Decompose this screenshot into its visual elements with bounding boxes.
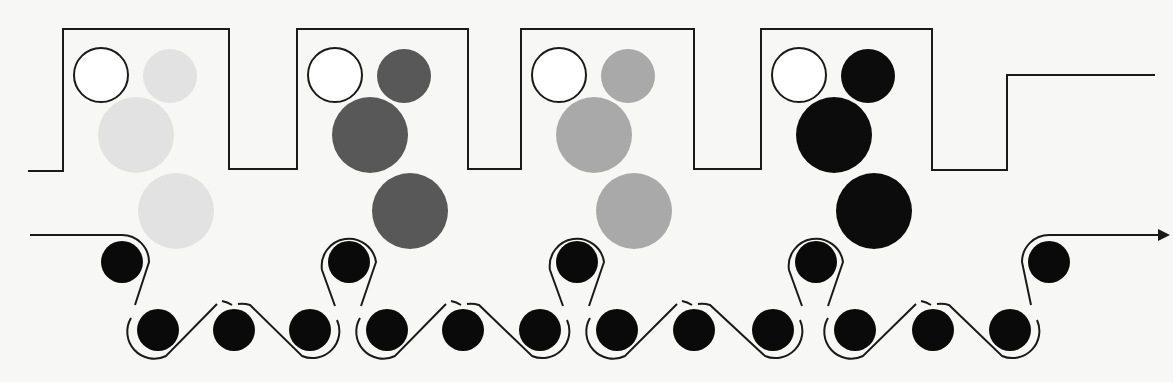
empty-circle [74, 48, 128, 102]
empty-circle [772, 48, 826, 102]
tank-3 [532, 48, 672, 249]
lower-roller [289, 309, 331, 351]
material-circle [143, 49, 197, 103]
web-over-wrap [921, 301, 931, 305]
upper-roller [556, 241, 598, 283]
web-over-wrap [451, 301, 461, 305]
upper-roller [101, 241, 143, 283]
material-circle [138, 173, 214, 249]
tank-circles [74, 48, 912, 249]
lower-roller [989, 309, 1031, 351]
material-circle [332, 97, 408, 173]
tank-1 [74, 48, 214, 249]
web-over-wrap [222, 301, 232, 305]
lower-roller [137, 309, 179, 351]
web-over-wrap [682, 301, 692, 305]
lower-roller [442, 309, 484, 351]
lower-roller [213, 309, 255, 351]
material-circle [377, 49, 431, 103]
upper-roller [795, 241, 837, 283]
lower-roller [752, 309, 794, 351]
material-circle [841, 49, 895, 103]
empty-circle [532, 48, 586, 102]
material-circle [601, 49, 655, 103]
tank-4 [772, 48, 912, 249]
lower-roller [519, 309, 561, 351]
upper-roller [1028, 241, 1070, 283]
material-circle [596, 173, 672, 249]
material-circle [796, 97, 872, 173]
material-circle [556, 97, 632, 173]
web-process-diagram [0, 0, 1173, 382]
upper-roller [328, 241, 370, 283]
lower-roller [912, 309, 954, 351]
lower-roller [596, 309, 638, 351]
material-circle [372, 173, 448, 249]
lower-roller [834, 309, 876, 351]
material-circle [98, 97, 174, 173]
tank-2 [308, 48, 448, 249]
arrow-head [1158, 229, 1170, 241]
lower-roller [366, 309, 408, 351]
exit-arrow-icon [1158, 229, 1170, 241]
empty-circle [308, 48, 362, 102]
material-circle [836, 173, 912, 249]
lower-roller [673, 309, 715, 351]
